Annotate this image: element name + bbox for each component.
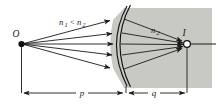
incident-ray-2 [22,34,112,45]
n1-symbol: n [59,17,63,27]
less-than-symbol: < [70,18,76,27]
n1-subscript: 1 [65,21,68,28]
incident-ray-5 [22,44,110,68]
object-point-label: O [13,29,20,39]
n2-symbol-inner: n [151,25,155,35]
figure-canvas: O I n 1 < n 2 n 2 p q [0,0,218,108]
refracted-ray-3 [121,44,183,45]
object-distance-label: p [79,88,85,98]
image-point-dot [184,41,191,48]
medium-comparison-label: n 1 < n 2 [59,17,86,28]
n2-subscript-inner: 2 [157,29,160,36]
n2-symbol-outer: n [77,17,81,27]
optics-refraction-figure: O I n 1 < n 2 n 2 p q [0,0,218,108]
n2-subscript-outer: 2 [83,21,86,28]
incident-ray-4 [22,44,112,55]
object-point-dot [18,41,24,47]
image-distance-label: q [152,88,157,98]
